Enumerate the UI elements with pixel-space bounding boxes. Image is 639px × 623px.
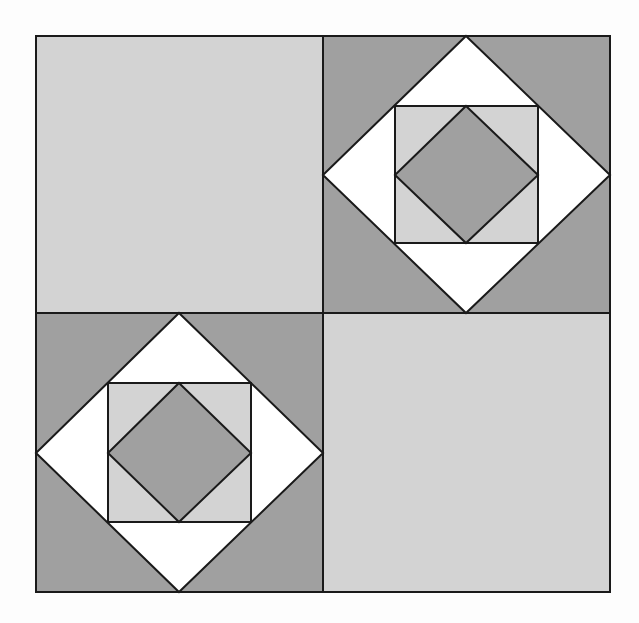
patch-bottom-left xyxy=(36,313,323,592)
patch-bottom-right xyxy=(323,313,610,592)
patch-top-left xyxy=(36,36,323,313)
quilt-diagram xyxy=(0,0,639,623)
patch-top-right xyxy=(323,36,610,313)
